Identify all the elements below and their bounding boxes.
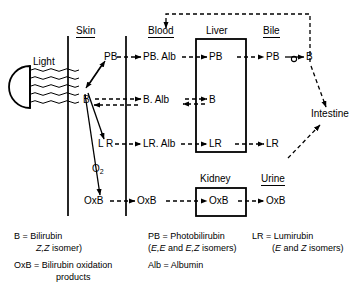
node-liver-lr: LR (209, 138, 222, 149)
node-blood-oxb: OxB (137, 195, 156, 206)
legend-lr-term: LR = Lumirubin (252, 230, 313, 242)
pathway-diagram: Skin Blood Liver Bile Kidney Urine Light… (0, 0, 364, 293)
arrow-pb-to-b (86, 63, 103, 88)
node-blood-lr-alb: LR. Alb (143, 138, 175, 149)
node-blood-b-alb: B. Alb (143, 94, 169, 105)
node-bile-pb: PB (266, 51, 279, 62)
node-urine-oxb: OxB (266, 195, 285, 206)
node-skin-oxb: OxB (84, 195, 103, 206)
legend-oxb-detail: products (56, 271, 91, 283)
header-skin: Skin (76, 25, 95, 38)
node-intestine: Intestine (311, 108, 349, 119)
oxygen-subscript: 2 (100, 168, 104, 175)
legend-b-isomer-italic: Z,Z (36, 243, 50, 253)
node-liver-b: B (209, 94, 216, 105)
node-kidney-oxb: OxB (209, 195, 228, 206)
legend-lr-detail: (E and Z isomers) (272, 242, 344, 254)
node-skin-b: B (83, 94, 90, 105)
node-skin-pb: PB (104, 51, 117, 62)
header-urine: Urine (261, 173, 285, 186)
arrow-bileb-to-intestine (311, 66, 326, 107)
oxygen-symbol: O (92, 163, 100, 174)
enterohepatic-feedback-loop (166, 14, 310, 62)
legend-pb-detail: (E,E and E,Z isomers) (148, 242, 237, 254)
legend-alb-term: Alb = Albumin (148, 259, 203, 271)
compartment-dividers (68, 36, 246, 216)
node-bile-b: B (306, 51, 313, 62)
legend-b-detail: Z,Z isomer) (36, 242, 82, 254)
arrow-bilelr-to-intestine (288, 125, 320, 158)
light-label: Light (33, 56, 55, 67)
legend-oxb-term: OxB = Bilirubin oxidation (14, 259, 112, 271)
bile-pb-to-b-conversion (285, 56, 304, 61)
header-kidney: Kidney (200, 173, 231, 185)
node-bile-lr: LR (266, 138, 279, 149)
light-rays (31, 69, 79, 104)
header-liver: Liver (206, 25, 228, 37)
node-blood-pb-alb: PB. Alb (143, 51, 176, 62)
node-skin-lr: L R (98, 138, 113, 149)
legend-b-term: B = Bilirubin (14, 230, 62, 242)
header-blood: Blood (148, 25, 174, 38)
legend-pb-term: PB = Photobilirubin (148, 230, 225, 242)
node-liver-pb: PB (209, 51, 222, 62)
node-oxygen: O2 (92, 163, 104, 177)
header-bile: Bile (263, 25, 280, 38)
